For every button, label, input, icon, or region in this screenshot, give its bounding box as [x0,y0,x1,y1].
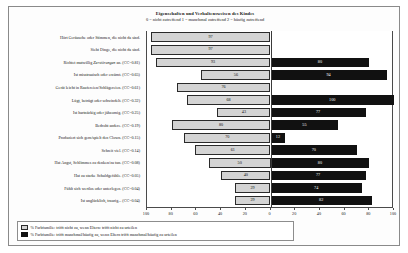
chart-subtitle: 0 = nicht zutreffend 1 = manchmal zutref… [9,17,401,23]
category-label-row: Richtet mutwillig Zerstörungen an. (CC=0… [13,56,143,69]
bar-left: 68 [187,95,271,105]
category-label: Ist unglücklich, traurig... (CC=0.04) [81,198,140,203]
bar-left: 50 [209,158,271,168]
bar-left: 97 [151,45,271,55]
legend-item: % Farbfamilie: trifft manchmal/häufig zu… [21,231,290,238]
bar-left: 80 [172,120,271,130]
bar-value-label: 97 [209,47,213,52]
x-axis: 10080604020020406080100 [146,207,393,219]
bar-row: 2974 [147,182,392,195]
category-label: Richtet mutwillig Zerstörungen an. (CC=0… [64,60,140,65]
axis-tick-label: 80 [169,211,173,216]
category-label-row: Hat zu starke Schuldgefühle. (CC=0.05) [13,169,143,182]
category-label: Hat zu starke Schuldgefühle. (CC=0.05) [74,173,140,178]
category-label-row: Ist hartnäckig oder jähzornig. (CC=0.25) [13,106,143,119]
category-label-row: Gerät leicht in Raufereien/Schlägereien.… [13,81,143,94]
bar-value-label: 97 [209,35,213,40]
bar-value-label: 74 [314,186,318,191]
bars-container: 9797938056947668100437780557012617050804… [147,31,392,207]
category-label: Fühlt sich wertlos oder unterlegen. (CC=… [64,186,140,191]
category-label: Hört Geräusche oder Stimmen, die nicht d… [60,35,140,40]
plot-area: 9797938056947668100437780557012617050804… [146,31,393,207]
bar-left: 29 [235,183,271,193]
bar-value-label: 77 [316,173,320,178]
category-label: Produziert sich gern/spielt den Clown. (… [58,135,140,140]
axis-tick-label: 100 [143,211,149,216]
bar-value-label: 61 [231,148,235,153]
category-label: Ist hartnäckig oder jähzornig. (CC=0.25) [73,110,140,115]
category-label: Schreit viel. (CC=0.14) [102,148,140,153]
bar-left: 40 [221,171,270,181]
bar-row: 68100 [147,94,392,107]
axis-tick-label: 60 [342,211,346,216]
bar-row: 5694 [147,69,392,82]
bar-value-label: 82 [319,198,323,203]
chart-legend: % Farbfamilie: trifft nicht zu, wenn Elt… [17,221,294,241]
chart-title-block: Eigenschaften und Verhaltensweisen des K… [9,11,401,23]
axis-tick-label: 20 [292,211,296,216]
bar-row: 9380 [147,56,392,69]
category-label-row: Ist misstrauisch oder erzürnt. (CC=0.65) [13,69,143,82]
category-label-row: Hat Angst, Schlimmes zu denken/zu tun. (… [13,157,143,170]
bar-right: 80 [271,58,370,68]
bar-value-label: 68 [226,98,230,103]
bar-value-label: 55 [302,123,306,128]
axis-tick-label: 80 [366,211,370,216]
bar-left: 70 [184,133,270,143]
category-label-row: Hört Geräusche oder Stimmen, die nicht d… [13,31,143,44]
bar-row: 97 [147,44,392,57]
chart-frame: Eigenschaften und Verhaltensweisen des K… [8,6,400,246]
bar-value-label: 94 [326,73,330,78]
chart-body: Hört Geräusche oder Stimmen, die nicht d… [13,31,397,217]
bar-left: 43 [217,108,270,118]
category-label: Lügt, betrügt oder schwindelt. (CC=0.32) [72,98,140,103]
axis-tick-label: 40 [317,211,321,216]
category-label-row: Schreit viel. (CC=0.14) [13,144,143,157]
category-label-row: Produziert sich gern/spielt den Clown. (… [13,132,143,145]
bar-left: 61 [195,145,270,155]
bar-value-label: 12 [276,135,280,140]
axis-tick-label: 0 [268,211,270,216]
category-label: Ist misstrauisch oder erzürnt. (CC=0.65) [74,72,140,77]
category-label: Hat Angst, Schlimmes zu denken/zu tun. (… [55,160,140,165]
bar-right: 100 [271,95,395,105]
bar-value-label: 70 [225,135,229,140]
bar-row: 6170 [147,144,392,157]
bar-value-label: 70 [312,148,316,153]
bar-right: 80 [271,158,370,168]
bar-left: 93 [156,58,271,68]
bar-value-label: 80 [219,123,223,128]
bar-right: 12 [271,133,286,143]
bar-left: 76 [177,83,271,93]
axis-tick-label: 20 [243,211,247,216]
bar-value-label: 29 [250,198,254,203]
bar-row: 4077 [147,169,392,182]
bar-row: 2982 [147,194,392,207]
legend-label: % Farbfamilie: trifft manchmal/häufig zu… [31,232,177,237]
bar-right: 77 [271,108,366,118]
bar-right: 74 [271,183,362,193]
bar-right: 70 [271,145,357,155]
legend-label: % Farbfamilie: trifft nicht zu, wenn Elt… [31,225,137,230]
legend-swatch-icon [21,225,28,230]
category-label-row: Ist unglücklich, traurig... (CC=0.04) [13,194,143,207]
bar-right: 55 [271,120,339,130]
bar-value-label: 76 [221,85,225,90]
category-label: Gerät leicht in Raufereien/Schlägereien.… [56,85,140,90]
axis-tick-label: 40 [218,211,222,216]
bar-value-label: 56 [234,73,238,78]
bar-value-label: 100 [329,98,335,103]
legend-item: % Farbfamilie: trifft nicht zu, wenn Elt… [21,224,290,231]
bar-value-label: 43 [242,110,246,115]
bar-row: 97 [147,31,392,44]
category-label-row: Lügt, betrügt oder schwindelt. (CC=0.32) [13,94,143,107]
bar-left: 29 [235,196,271,206]
bar-value-label: 29 [250,186,254,191]
category-label: Bedroht andere. (CC=0.19) [95,123,140,128]
bar-row: 5080 [147,157,392,170]
axis-tick-label: 60 [193,211,197,216]
bar-value-label: 77 [316,110,320,115]
category-label: Sieht Dinge, die nicht da sind. [91,47,140,52]
bar-value-label: 80 [318,161,322,166]
bar-row: 4377 [147,106,392,119]
